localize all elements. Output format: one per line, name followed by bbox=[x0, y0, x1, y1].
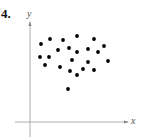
data-point bbox=[58, 65, 62, 69]
data-point bbox=[48, 37, 52, 41]
data-point bbox=[96, 50, 100, 54]
data-point bbox=[81, 67, 85, 71]
data-point bbox=[92, 37, 96, 41]
data-point bbox=[102, 44, 106, 48]
data-point bbox=[92, 68, 96, 72]
data-point bbox=[66, 87, 70, 91]
data-point bbox=[68, 69, 72, 73]
data-point bbox=[86, 47, 90, 51]
data-point bbox=[61, 38, 65, 42]
scatter-plot bbox=[0, 0, 143, 140]
data-point bbox=[70, 58, 74, 62]
data-point bbox=[39, 42, 43, 46]
data-point bbox=[56, 48, 60, 52]
data-points bbox=[38, 34, 110, 91]
data-point bbox=[47, 55, 51, 59]
data-point bbox=[67, 46, 71, 50]
data-point bbox=[75, 50, 79, 54]
data-point bbox=[75, 34, 79, 38]
data-point bbox=[86, 60, 90, 64]
data-point bbox=[106, 59, 110, 63]
data-point bbox=[43, 63, 47, 67]
data-point bbox=[38, 55, 42, 59]
data-point bbox=[75, 73, 79, 77]
